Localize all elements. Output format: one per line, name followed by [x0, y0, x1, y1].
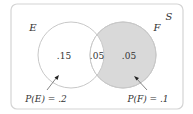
e-only-value: .15 — [57, 51, 72, 61]
p-f-label: P(F) = .1 — [126, 94, 168, 104]
p-e-label: P(E) = .2 — [24, 94, 67, 104]
set-f-label: F — [153, 22, 162, 33]
universe-label: S — [166, 11, 173, 22]
intersection-value: .05 — [90, 51, 105, 61]
venn-diagram: S E F .15 .05 .05 P(E) = .2 P(F) = .1 — [0, 0, 193, 114]
set-e-label: E — [28, 22, 37, 33]
f-only-value: .05 — [122, 51, 137, 61]
